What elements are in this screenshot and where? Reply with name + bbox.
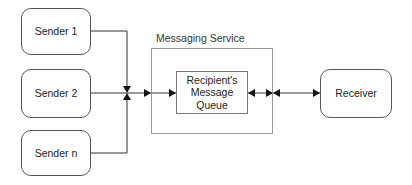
queue-label-line-3: Queue	[196, 99, 228, 112]
sender-n-node[interactable]: Sender n	[21, 130, 91, 176]
messaging-service-title: Messaging Service	[156, 32, 245, 44]
receiver-node[interactable]: Receiver	[320, 69, 392, 118]
sender-2-node[interactable]: Sender 2	[21, 69, 91, 118]
queue-label-line-2: Message	[191, 86, 234, 99]
recipient-message-queue-node[interactable]: Recipient's Message Queue	[176, 71, 248, 114]
queue-label-line-1: Recipient's	[186, 74, 237, 87]
receiver-label: Receiver	[335, 87, 376, 100]
sender-n-label: Sender n	[35, 147, 78, 160]
sender-2-label: Sender 2	[35, 87, 78, 100]
sender-1-node[interactable]: Sender 1	[21, 8, 91, 55]
sender-1-label: Sender 1	[35, 25, 78, 38]
